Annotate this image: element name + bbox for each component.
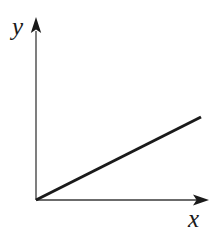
y-axis-arrowhead-icon [31,17,41,33]
x-axis-label: x [188,206,199,231]
figure-canvas: y x [0,0,218,236]
data-line-series-0 [36,117,201,200]
coordinate-plot [0,0,218,236]
y-axis-label: y [12,14,23,39]
